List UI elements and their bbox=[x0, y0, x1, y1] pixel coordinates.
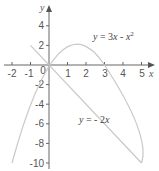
parabola-curve bbox=[12, 44, 143, 163]
x-tick-label: 5 bbox=[139, 68, 145, 79]
origin-label: 0 bbox=[40, 65, 46, 76]
y-tick-label: 4 bbox=[38, 20, 44, 31]
x-tick-label: -2 bbox=[8, 68, 17, 79]
y-tick-labels: 4 2 -2 -4 -6 -8 -10 bbox=[30, 20, 45, 169]
x-tick-labels: -2 -1 1 2 3 4 5 0 bbox=[8, 65, 146, 79]
x-tick-label: 2 bbox=[83, 68, 89, 79]
y-tick-label: -6 bbox=[35, 118, 44, 129]
y-axis-arrow-icon bbox=[46, 5, 52, 12]
parabola-equation-label: y = 3x - x2 bbox=[92, 30, 134, 42]
x-tick-label: -1 bbox=[25, 68, 34, 79]
y-tick-label: -10 bbox=[30, 158, 45, 169]
graph: -2 -1 1 2 3 4 5 0 4 2 -2 -4 -6 -8 -10 y … bbox=[0, 0, 159, 171]
x-tick-label: 1 bbox=[65, 68, 71, 79]
y-tick-label: -8 bbox=[35, 138, 44, 149]
y-tick-label: -4 bbox=[35, 99, 44, 110]
y-axis-label: y bbox=[39, 2, 45, 13]
x-axis-label: x bbox=[148, 68, 154, 79]
y-tick-label: 2 bbox=[38, 40, 44, 51]
line-equation-label: y = - 2x bbox=[78, 114, 110, 125]
x-tick-label: 4 bbox=[120, 68, 126, 79]
